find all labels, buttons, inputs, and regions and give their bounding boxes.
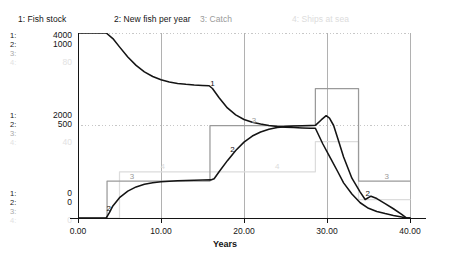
x-tick-1	[161, 218, 162, 223]
x-tick-4	[410, 218, 411, 223]
svg-text:2: 2	[365, 189, 370, 198]
y-index-1-bottom: 1:	[10, 189, 16, 198]
y-value-4-top: 80	[18, 58, 72, 67]
x-tick-label-4: 40.00	[399, 226, 420, 236]
plot-area: 1122233344	[78, 33, 418, 218]
y-index-2-top: 2:	[10, 40, 16, 49]
x-tick-2	[244, 218, 245, 223]
legend-item-ships-at-sea[interactable]: 4: Ships at sea	[292, 11, 349, 27]
x-tick-label-0: 0.00	[70, 226, 87, 236]
svg-text:1: 1	[210, 79, 215, 88]
y-index-3-top: 3:	[10, 49, 16, 58]
y-value-4-bottom: 0	[18, 216, 72, 225]
x-tick-3	[327, 218, 328, 223]
y-value-1-bottom: 0	[18, 189, 72, 198]
y-index-2-bottom: 2:	[10, 198, 16, 207]
y-index-1-middle: 1:	[10, 111, 16, 120]
y-index-4-top: 4:	[10, 58, 16, 67]
y-value-2-bottom: 0	[18, 198, 72, 207]
y-index-4-bottom: 4:	[10, 216, 16, 225]
x-tick-label-2: 20.00	[233, 226, 254, 236]
x-tick-0	[78, 218, 79, 223]
x-axis-title: Years	[0, 239, 450, 249]
y-index-2-middle: 2:	[10, 120, 16, 129]
svg-text:3: 3	[130, 172, 135, 181]
y-index-1-top: 1:	[10, 31, 16, 40]
svg-text:4: 4	[275, 162, 280, 171]
x-tick-label-3: 30.00	[316, 226, 337, 236]
svg-text:4: 4	[160, 162, 165, 171]
x-axis-line	[70, 218, 426, 219]
y-value-2-top: 1000	[18, 40, 72, 49]
y-value-2-middle: 500	[18, 120, 72, 129]
simulation-chart: 1: Fish stock 2: New fish per year 3: Ca…	[0, 0, 450, 265]
svg-text:3: 3	[385, 172, 390, 181]
legend-item-fish-stock[interactable]: 1: Fish stock	[18, 11, 66, 27]
chart-legend: 1: Fish stock 2: New fish per year 3: Ca…	[0, 11, 450, 27]
y-axis-line	[78, 33, 79, 219]
x-tick-label-1: 10.00	[150, 226, 171, 236]
svg-text:3: 3	[252, 116, 257, 125]
svg-text:2: 2	[230, 145, 235, 154]
y-index-3-bottom: 3:	[10, 207, 16, 216]
svg-text:2: 2	[106, 204, 111, 213]
y-index-4-middle: 4:	[10, 138, 16, 147]
legend-item-catch[interactable]: 3: Catch	[200, 11, 232, 27]
y-index-3-middle: 3:	[10, 129, 16, 138]
plot-svg: 1122233344	[78, 33, 418, 218]
y-value-4-middle: 40	[18, 138, 72, 147]
legend-item-new-fish-per-year[interactable]: 2: New fish per year	[114, 11, 191, 27]
